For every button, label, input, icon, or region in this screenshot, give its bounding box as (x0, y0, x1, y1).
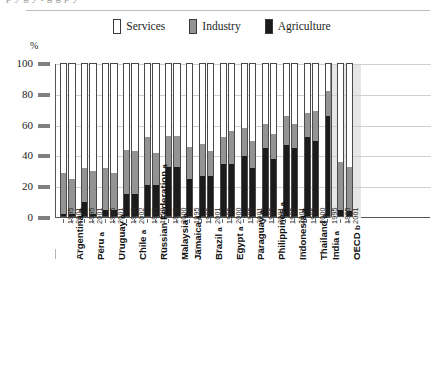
country-label-argentina: Argentina a (74, 209, 85, 260)
x-tick-mark (243, 219, 244, 223)
x-tick-mark (126, 219, 127, 223)
footnote-marker: a (139, 230, 148, 237)
year-label: 2001 (351, 207, 360, 224)
country-name: Brazil (213, 234, 224, 260)
y-tick-mark-0 (38, 216, 50, 220)
x-tick-mark (201, 219, 202, 223)
bar-paraguay-1995[interactable] (241, 63, 248, 217)
footnote-marker: a (76, 209, 85, 216)
x-tick-mark (294, 219, 295, 223)
x-tick-mark (285, 219, 286, 223)
segment-industry (187, 147, 192, 179)
country-name: Chile (137, 237, 148, 260)
y-tick-label-60: 60 (9, 119, 33, 131)
bar-philippines-1995[interactable] (262, 63, 269, 217)
country-name: Russian Federation (158, 171, 169, 260)
bar-chile-2002[interactable] (131, 63, 138, 217)
country-label-brazil: Brazil a (213, 227, 224, 260)
segment-industry (313, 111, 318, 140)
y-tick-label-100: 100 (9, 57, 33, 69)
bar-indonesia-1995[interactable] (283, 63, 290, 217)
country-name: Philippines (276, 209, 287, 260)
footnote-marker: b (353, 225, 362, 232)
bar-peru-2001[interactable] (89, 63, 96, 217)
bar-thailand-2000[interactable] (312, 63, 319, 217)
x-tick-mark (252, 219, 253, 223)
chart-plot-area (55, 64, 430, 218)
x-tick-mark (63, 219, 64, 223)
x-tick-mark (105, 219, 106, 223)
x-tick-mark (176, 219, 177, 223)
chart-plot-wrapper: 02040608010019952001Argentina a19952001P… (0, 0, 444, 367)
x-tick-mark (147, 219, 148, 223)
segment-industry (305, 113, 310, 138)
bar-uruguay-2001[interactable] (110, 63, 117, 217)
segment-industry (82, 168, 87, 202)
bar-chile-1995[interactable] (123, 63, 130, 217)
segment-industry (250, 141, 255, 169)
bar-thailand-1995[interactable] (304, 63, 311, 217)
bar-brazil-1995[interactable] (199, 63, 206, 217)
segment-industry (338, 162, 343, 210)
footnote-marker: a (215, 227, 224, 234)
country-label-philippines: Philippines a (276, 202, 287, 260)
footnote-marker: a (257, 210, 266, 217)
country-name: Paraguay (255, 217, 266, 260)
bar-oecd-1995[interactable] (337, 63, 344, 217)
bar-argentina-2001[interactable] (68, 63, 75, 217)
bar-oecd-2001[interactable] (346, 63, 353, 217)
x-tick-mark (134, 219, 135, 223)
country-name: OECD (351, 232, 362, 260)
segment-industry (208, 151, 213, 176)
country-label-paraguay: Paraguay a (255, 210, 266, 260)
y-tick-mark-20 (38, 185, 50, 189)
segment-industry (166, 136, 171, 167)
y-tick-label-0: 0 (9, 211, 33, 223)
bar-paraguay-2001[interactable] (249, 63, 256, 217)
x-tick-mark (348, 219, 349, 223)
x-tick-mark (222, 219, 223, 223)
bar-malaysia-2000[interactable] (173, 63, 180, 217)
x-tick-mark (155, 219, 156, 223)
country-name: Thailand (318, 221, 329, 260)
bar-jamaica-1995[interactable] (186, 63, 193, 217)
bar-argentina-1995[interactable] (60, 63, 67, 217)
x-tick-mark (168, 219, 169, 223)
bar-egypt-1995[interactable] (220, 63, 227, 217)
x-tick-mark (273, 219, 274, 223)
x-tick-mark (231, 219, 232, 223)
x-tick-mark (327, 219, 328, 223)
y-tick-label-80: 80 (9, 88, 33, 100)
bar-indonesia-2001[interactable] (291, 63, 298, 217)
country-label-egypt: Egypt a (234, 227, 245, 260)
segment-industry (124, 150, 129, 195)
x-tick-mark (340, 219, 341, 223)
x-tick-mark (306, 219, 307, 223)
oecd-panel-divider (330, 64, 331, 218)
segment-industry (111, 173, 116, 210)
year-label: 2002 (137, 207, 146, 224)
bar-peru-1995[interactable] (81, 63, 88, 217)
segment-agriculture (263, 148, 268, 216)
x-tick-mark (71, 219, 72, 223)
segment-industry (174, 136, 179, 167)
segment-industry (200, 144, 205, 176)
bar-russian-federation-1995[interactable] (144, 63, 151, 217)
x-tick-mark (315, 219, 316, 223)
country-name: Jamaica (192, 222, 203, 260)
bar-philippines-2001[interactable] (270, 63, 277, 217)
bar-brazil-2001[interactable] (207, 63, 214, 217)
footnote-marker: a (97, 232, 106, 239)
y-tick-mark-80 (38, 93, 50, 97)
year-label: 2001 (95, 207, 104, 224)
y-tick-label-40: 40 (9, 149, 33, 161)
segment-agriculture (292, 148, 297, 216)
bar-uruguay-1995[interactable] (102, 63, 109, 217)
x-tick-mark (113, 219, 114, 223)
x-tick-mark (264, 219, 265, 223)
country-label-peru: Peru a (95, 232, 106, 260)
x-tick-mark (92, 219, 93, 223)
bar-egypt-2000[interactable] (228, 63, 235, 217)
year-label: 2001 (213, 207, 222, 224)
country-name: Uruguay (116, 221, 127, 260)
